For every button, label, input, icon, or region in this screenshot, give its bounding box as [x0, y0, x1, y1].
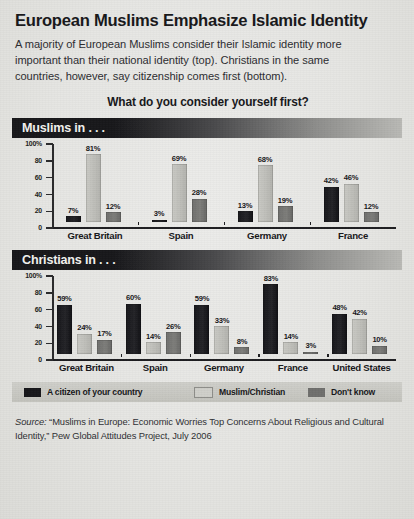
x-tick — [258, 354, 259, 357]
bar-fill — [86, 154, 101, 222]
bar-fill — [372, 346, 387, 354]
figure-sheet: European Muslims Emphasize Islamic Ident… — [12, 6, 404, 442]
category-label: United States — [327, 362, 396, 373]
bar-group: 13%68%19%Germany — [224, 138, 310, 222]
x-tick — [138, 222, 139, 225]
y-tick-label: 20 — [12, 339, 42, 346]
bar: 59% — [194, 305, 209, 355]
bar-value-label: 60% — [116, 293, 150, 302]
bar: 3% — [303, 352, 318, 355]
category-label: Germany — [190, 362, 259, 373]
chart-christians-title: Christians in . . . — [22, 253, 115, 267]
bar: 14% — [146, 342, 161, 354]
bar: 42% — [324, 187, 339, 222]
bar-value-label: 69% — [162, 154, 196, 163]
chart-muslims-title: Muslims in . . . — [22, 121, 105, 135]
bar-value-label: 81% — [76, 144, 110, 153]
bar: 26% — [166, 332, 181, 354]
bar-value-label: 59% — [47, 294, 81, 303]
y-tick-label: 0 — [12, 356, 42, 363]
x-tick — [327, 354, 328, 357]
bar-group: 59%33%8%Germany — [190, 270, 259, 354]
bar: 48% — [332, 314, 347, 354]
source-text: “Muslims in Europe: Economic Worries Top… — [15, 416, 384, 441]
category-label: Spain — [121, 362, 190, 373]
bar: 8% — [234, 347, 249, 354]
bar-fill — [126, 304, 141, 354]
bar-group: 60%14%26%Spain — [121, 270, 190, 354]
bar-value-label: 14% — [274, 332, 308, 341]
y-tick-label: 60 — [12, 306, 42, 313]
swatch-dark-gray — [308, 388, 325, 397]
category-label: Spain — [138, 230, 224, 241]
legend-label: Don't know — [331, 387, 375, 397]
chart-christians-plot: 020406080100%59%24%17%Great Britain60%14… — [12, 270, 402, 376]
swatch-black — [24, 388, 41, 397]
bar-value-label: 26% — [156, 322, 190, 331]
bar-value-label: 12% — [354, 202, 388, 211]
page-title: European Muslims Emphasize Islamic Ident… — [15, 12, 404, 30]
subtitle-text: A majority of European Muslims consider … — [15, 36, 377, 84]
legend-item: A citizen of your country — [24, 387, 142, 397]
bar: 60% — [126, 304, 141, 354]
scanned-page: European Muslims Emphasize Islamic Ident… — [0, 0, 414, 519]
bar: 12% — [106, 212, 121, 222]
x-tick — [121, 354, 122, 357]
swatch-light-gray — [194, 387, 213, 398]
category-label: Great Britain — [52, 230, 138, 241]
y-tick-label: 80 — [12, 289, 42, 296]
bar-fill — [278, 206, 293, 222]
bar-group: 48%42%10%United States — [327, 270, 396, 354]
bar-value-label: 59% — [185, 294, 219, 303]
category-label: France — [310, 230, 396, 241]
bar-fill — [364, 212, 379, 222]
bar: 81% — [86, 154, 101, 222]
bar-fill — [303, 352, 318, 355]
bar-value-label: 33% — [205, 316, 239, 325]
chart-christians-banner: Christians in . . . — [12, 250, 402, 270]
bar-fill — [263, 284, 278, 354]
source-label: Source: — [15, 416, 47, 427]
y-tick-label: 40 — [12, 323, 42, 330]
legend-item: Don't know — [308, 387, 375, 397]
legend-label: Muslim/Christian — [219, 387, 285, 397]
bar-value-label: 46% — [334, 173, 368, 182]
bar-value-label: 42% — [343, 308, 377, 317]
bar: 3% — [152, 220, 167, 223]
bar-value-label: 8% — [225, 337, 259, 346]
bar: 28% — [192, 199, 207, 223]
bar-value-label: 12% — [96, 202, 130, 211]
chart-muslims-banner: Muslims in . . . — [12, 118, 402, 138]
category-label: Great Britain — [52, 362, 121, 373]
bar-fill — [332, 314, 347, 354]
legend-label: A citizen of your country — [47, 387, 142, 397]
y-tick — [46, 227, 53, 228]
bar-group: 3%69%28%Spain — [138, 138, 224, 222]
y-tick-label: 20 — [12, 207, 42, 214]
y-tick-label: 0 — [12, 224, 42, 231]
bar: 13% — [238, 211, 253, 222]
y-tick-label: 100% — [12, 272, 42, 279]
bar-fill — [258, 165, 273, 222]
category-label: Germany — [224, 230, 310, 241]
x-tick — [224, 222, 225, 225]
bar-fill — [192, 199, 207, 223]
bar-fill — [194, 305, 209, 355]
y-tick — [46, 359, 53, 360]
y-tick-label: 40 — [12, 191, 42, 198]
bar-fill — [238, 211, 253, 222]
bar-group: 42%46%12%France — [310, 138, 396, 222]
bar-fill — [146, 342, 161, 354]
bar-fill — [324, 187, 339, 222]
bar-value-label: 68% — [248, 155, 282, 164]
question-heading: What do you consider yourself first? — [12, 95, 404, 109]
bar: 7% — [66, 216, 81, 222]
bar: 83% — [263, 284, 278, 354]
bar: 12% — [364, 212, 379, 222]
source-note: Source: “Muslims in Europe: Economic Wor… — [15, 415, 387, 442]
bar-value-label: 83% — [254, 274, 288, 283]
bar-value-label: 10% — [363, 335, 397, 344]
x-axis-line — [52, 359, 396, 361]
bar: 17% — [97, 340, 112, 354]
bar-group: 7%81%12%Great Britain — [52, 138, 138, 222]
